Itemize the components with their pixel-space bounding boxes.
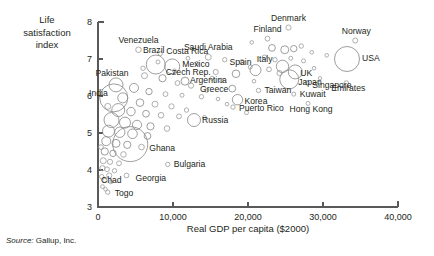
x-tick-label: 20,000: [234, 212, 262, 222]
point-label-venezuela: Venezuela: [118, 35, 158, 45]
data-bubble: [115, 127, 125, 137]
data-bubble: [141, 66, 145, 70]
data-bubble-finland: [265, 36, 270, 41]
point-label-denmark: Denmark: [271, 13, 307, 23]
point-label-italy: Italy: [257, 54, 273, 64]
data-bubble-kuwait: [292, 92, 296, 96]
y-tick-label: 8: [87, 17, 92, 27]
x-tick-label: 0: [95, 212, 100, 222]
data-bubble: [99, 145, 104, 150]
point-label-emirates: Emirates: [331, 83, 365, 93]
data-bubble-brazil: [146, 55, 165, 74]
data-bubble: [175, 81, 180, 86]
data-bubble: [100, 158, 106, 164]
data-bubble: [302, 59, 306, 63]
data-bubble: [128, 129, 138, 139]
data-bubble-spain: [250, 65, 261, 76]
data-bubble-denmark: [286, 25, 291, 30]
data-bubble: [291, 45, 297, 51]
data-bubble-pakistan: [109, 78, 123, 92]
x-tick-label: 30,000: [309, 212, 337, 222]
point-label-puerto-rico: Puerto Rico: [239, 103, 284, 113]
data-bubble-georgia: [124, 173, 129, 178]
data-bubble: [142, 73, 148, 79]
data-bubble-puerto-rico: [231, 105, 235, 109]
data-bubble: [130, 83, 139, 92]
data-bubble: [225, 102, 229, 106]
data-bubble: [156, 60, 160, 64]
point-label-chad: Chad: [101, 175, 122, 185]
data-bubble-venezuela: [136, 47, 142, 53]
data-bubble: [184, 108, 188, 112]
data-bubble: [118, 93, 128, 103]
data-bubble: [112, 104, 125, 117]
data-bubble: [146, 88, 152, 94]
point-label-norway: Norway: [342, 26, 372, 36]
data-bubble: [252, 79, 256, 83]
data-bubble: [269, 45, 276, 52]
point-label-saudi-arabia: Saudi Arabia: [184, 42, 233, 52]
data-bubble: [136, 99, 144, 107]
data-bubble: [127, 107, 135, 115]
source-value: Gallup, Inc.: [36, 236, 76, 245]
source-note: Source: Gallup, Inc.: [6, 236, 76, 245]
data-bubble: [144, 133, 151, 140]
data-bubble: [267, 67, 272, 72]
y-tick-label: 5: [87, 128, 92, 138]
point-label-usa: USA: [362, 53, 380, 63]
data-bubble: [105, 167, 110, 172]
data-bubble: [112, 169, 116, 173]
data-bubble: [143, 110, 150, 117]
point-label-spain: Spain: [230, 57, 252, 67]
data-bubble-czech-rep-: [213, 69, 218, 74]
point-label-finland: Finland: [253, 24, 281, 34]
data-bubble-italy: [276, 60, 288, 72]
data-bubble: [117, 161, 122, 166]
y-tick-label: 3: [87, 202, 92, 212]
data-bubble-norway: [353, 38, 358, 43]
data-bubble: [147, 123, 154, 130]
data-bubble: [158, 112, 164, 118]
data-bubble: [289, 56, 293, 60]
data-bubble: [124, 141, 131, 148]
data-bubble-usa: [335, 47, 360, 72]
point-label-russia: Russia: [202, 115, 228, 125]
x-axis-title: Real GDP per capita ($2000): [187, 223, 309, 234]
data-bubble-bulgaria: [166, 162, 170, 166]
data-bubble-togo: [106, 190, 110, 194]
data-bubble: [105, 103, 111, 109]
data-bubble: [139, 144, 145, 150]
data-bubble: [121, 152, 127, 158]
source-prefix: Source:: [6, 236, 34, 245]
point-label-bulgaria: Bulgaria: [174, 159, 206, 169]
scatter-plot: DenmarkFinlandNorwayVenezuelaCosta RicaS…: [0, 0, 434, 256]
data-bubble: [177, 114, 182, 119]
point-label-brazil: Brazil: [143, 45, 165, 55]
point-label-georgia: Georgia: [136, 173, 167, 183]
data-bubble: [325, 54, 329, 58]
data-bubble-taiwan: [256, 88, 260, 92]
x-tick-label: 40,000: [384, 212, 412, 222]
data-bubble: [299, 44, 303, 48]
data-bubble: [180, 93, 184, 97]
data-bubble: [164, 126, 170, 132]
data-bubble: [216, 97, 220, 101]
point-label-togo: Togo: [115, 188, 134, 198]
point-label-greece: Greece: [200, 84, 228, 94]
data-bubble: [312, 66, 316, 70]
data-bubble: [163, 92, 168, 97]
data-bubble: [273, 58, 277, 62]
data-bubble: [152, 101, 158, 107]
chart-figure: Life satisfaction index DenmarkFinlandNo…: [0, 0, 434, 256]
data-bubble: [223, 58, 227, 62]
y-tick-label: 7: [87, 54, 92, 64]
point-label-pakistan: Pakistan: [96, 68, 129, 78]
data-bubble: [310, 51, 314, 55]
data-bubble: [250, 41, 254, 45]
data-bubble-greece: [229, 85, 236, 92]
x-tick-label: 10,000: [159, 212, 187, 222]
point-label-hong-kong: Hong Kong: [289, 104, 332, 114]
data-bubble: [102, 137, 111, 146]
data-bubble: [107, 159, 112, 164]
y-tick-label: 4: [87, 165, 92, 175]
